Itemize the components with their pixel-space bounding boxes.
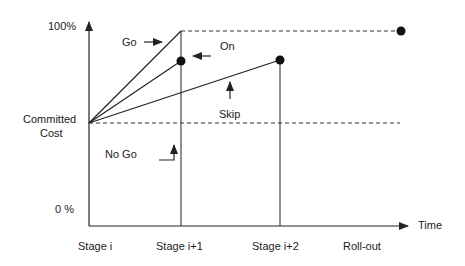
y-mid-label-1: Committed <box>23 113 76 125</box>
x-tick-rollout: Roll-out <box>343 240 381 252</box>
x-axis-label: Time <box>418 219 442 231</box>
skip-dot <box>276 56 285 65</box>
y-top-label: 100% <box>48 20 76 32</box>
on-path <box>89 61 181 123</box>
skip-path <box>89 60 280 123</box>
x-tick-stage-i: Stage i <box>78 240 112 252</box>
y-mid-label-2: Cost <box>40 127 63 139</box>
skip-label: Skip <box>219 108 240 120</box>
on-label: On <box>220 40 235 52</box>
on-dot <box>177 57 186 66</box>
no-go-arrow-icon <box>159 145 174 160</box>
diagram-canvas: 100% Committed Cost 0 % Go On Skip No Go… <box>0 0 465 266</box>
x-tick-stage-i1: Stage i+1 <box>156 240 203 252</box>
rollout-dot <box>397 27 406 36</box>
y-bottom-label: 0 % <box>55 203 74 215</box>
go-label: Go <box>122 36 137 48</box>
x-tick-stage-i2: Stage i+2 <box>252 240 299 252</box>
no-go-label: No Go <box>105 148 137 160</box>
